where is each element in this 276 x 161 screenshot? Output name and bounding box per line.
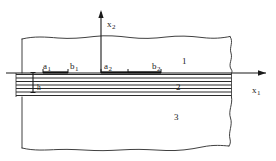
a1-sub: 1 xyxy=(47,65,51,73)
region-label-3: 3 xyxy=(174,113,179,122)
x1-label-sub: 1 xyxy=(257,89,261,97)
bottom-wavy-boundary xyxy=(22,145,229,150)
upper-right-edge xyxy=(230,37,232,74)
b2-sub: 2 xyxy=(157,65,161,73)
b1-sub: 1 xyxy=(75,65,79,73)
figure-canvas: x2 x1 a1 b1 a2 b2 1 2 3 h xyxy=(0,0,276,161)
lower-right-edge xyxy=(229,97,232,146)
x1-axis-arrowhead xyxy=(258,70,266,75)
b1-base: b xyxy=(70,61,75,71)
diagram-svg xyxy=(0,0,276,161)
region-label-2: 2 xyxy=(176,83,181,92)
x2-axis-arrowhead xyxy=(98,10,103,18)
thickness-marker-h xyxy=(31,73,36,93)
x1-axis-label: x1 xyxy=(252,80,261,97)
region-label-1: 1 xyxy=(182,57,187,66)
x2-axis-label: x2 xyxy=(107,14,116,31)
interval-label-b1: b1 xyxy=(70,56,79,73)
x2-label-sub: 2 xyxy=(112,23,116,31)
a2-sub: 2 xyxy=(108,65,112,73)
b2-base: b xyxy=(152,61,157,71)
x2-label-base: x xyxy=(107,19,112,29)
thickness-label-h: h xyxy=(37,84,41,92)
interval-label-a2: a2 xyxy=(104,56,112,73)
interval-label-b2: b2 xyxy=(152,56,161,73)
x1-label-base: x xyxy=(252,85,257,95)
top-wavy-boundary xyxy=(22,36,230,39)
layer-lines xyxy=(16,75,232,96)
interval-label-a1: a1 xyxy=(43,56,51,73)
